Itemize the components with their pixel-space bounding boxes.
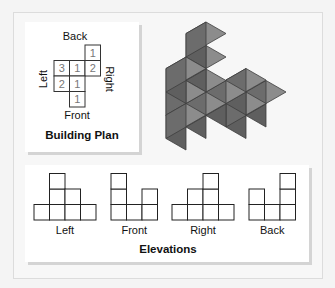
elevation-label: Front bbox=[121, 224, 147, 236]
elevations-panel: LeftFrontRightBack Elevations bbox=[25, 165, 309, 262]
elevations-drawings: LeftFrontRightBack Elevations bbox=[25, 165, 309, 262]
elevation-front: Front bbox=[111, 174, 158, 237]
elevation-label: Back bbox=[260, 224, 285, 236]
elevation-left: Left bbox=[34, 174, 96, 237]
elevation-label: Right bbox=[190, 224, 216, 236]
elevation-label: Left bbox=[56, 224, 74, 236]
elevation-right: Right bbox=[172, 174, 234, 237]
elevations-title: Elevations bbox=[139, 243, 197, 255]
elevation-back: Back bbox=[249, 174, 296, 237]
